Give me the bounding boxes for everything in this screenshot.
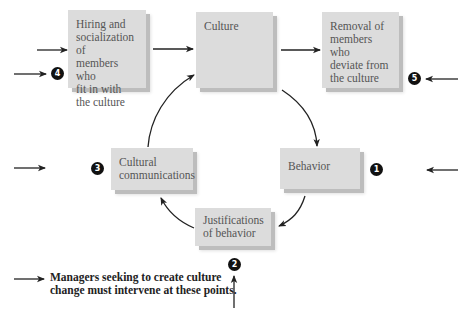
arrow-justifications-to-communications	[161, 198, 194, 228]
box-hiring: Hiring and socialization of members who …	[68, 10, 146, 88]
intervention-badge-3: 3	[91, 162, 104, 175]
box-cultural-communications: Cultural communications	[111, 148, 193, 190]
box-removal: Removal of members who deviate from the …	[322, 12, 399, 88]
arrow-culture-to-behavior	[282, 90, 317, 146]
box-justifications: Justifications of behavior	[195, 208, 271, 246]
intervention-badge-1: 1	[370, 163, 383, 176]
intervention-note: Managers seeking to create culture chang…	[50, 271, 237, 297]
box-behavior: Behavior	[280, 148, 360, 189]
intervention-badge-5: 5	[408, 72, 421, 85]
arrow-behavior-to-justifications	[279, 196, 305, 226]
arrow-communications-to-culture	[148, 75, 194, 147]
box-culture: Culture	[196, 12, 273, 88]
intervention-badge-4: 4	[51, 67, 64, 80]
intervention-badge-2: 2	[228, 258, 241, 271]
